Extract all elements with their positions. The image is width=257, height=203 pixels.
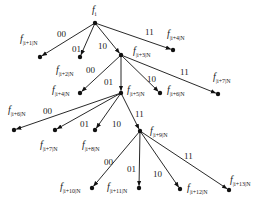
edge-label: 01 <box>127 165 136 174</box>
tree-node <box>119 91 123 95</box>
node-label: f|i+4|N <box>52 85 70 97</box>
tree-node <box>158 91 162 95</box>
edge-r-a <box>42 23 95 56</box>
node-label: f|i+6|N <box>8 105 26 117</box>
edge-m-o <box>139 131 140 186</box>
node-label: f|i+11|N <box>107 182 127 194</box>
edge-label: 00 <box>43 107 52 116</box>
tree-node <box>119 53 123 57</box>
node-label: f|i+9|N <box>150 126 168 138</box>
tree-node <box>12 128 16 132</box>
node-label: f|i+8|N <box>82 140 100 152</box>
edge-label: 00 <box>86 66 95 75</box>
node-label: f|i+6|N <box>167 85 185 97</box>
edge-label: 00 <box>57 30 66 39</box>
tree-node <box>171 48 175 52</box>
node-label: f|i+13|N <box>230 175 251 187</box>
edge-label: 10 <box>153 170 162 179</box>
edge-label: 10 <box>147 75 156 84</box>
node-label: f|i+5|N <box>127 85 145 97</box>
edge-m-n <box>94 131 140 186</box>
node-label: fi <box>92 5 96 17</box>
node-label: f|i+10|N <box>60 182 81 194</box>
edge-label: 01 <box>80 120 89 129</box>
tree-node <box>137 186 141 190</box>
edge-label: 11 <box>135 110 144 119</box>
edge-label: 00 <box>104 158 113 167</box>
tree-node <box>178 187 182 191</box>
tree-node <box>78 55 82 59</box>
edge-f-j <box>16 93 121 129</box>
tree-node <box>38 55 42 59</box>
edge-label: 11 <box>145 28 154 37</box>
edge-label: 01 <box>72 45 81 54</box>
edge-label: 11 <box>180 68 189 77</box>
edge-label: 10 <box>98 42 107 51</box>
tree-node <box>227 188 231 192</box>
node-label: f|i+1|N <box>20 34 38 46</box>
tree-node <box>90 186 94 190</box>
tree-node <box>53 128 57 132</box>
node-label: f|i+3|N <box>133 46 151 58</box>
tree-node <box>138 129 142 133</box>
edge-label: 11 <box>184 152 193 161</box>
tree-node <box>216 92 220 96</box>
tree-node <box>93 128 97 132</box>
node-label: f|i+4|N <box>167 29 185 41</box>
edge-label: 01 <box>104 78 113 87</box>
tree-node <box>78 91 82 95</box>
node-label: f|i+7|N <box>213 72 231 84</box>
tree-node <box>93 21 97 25</box>
edge-label: 10 <box>112 120 121 129</box>
node-label: f|i+2|N <box>56 65 74 77</box>
node-label: f|i+7|N <box>40 140 58 152</box>
node-label: f|i+12|N <box>187 183 208 195</box>
